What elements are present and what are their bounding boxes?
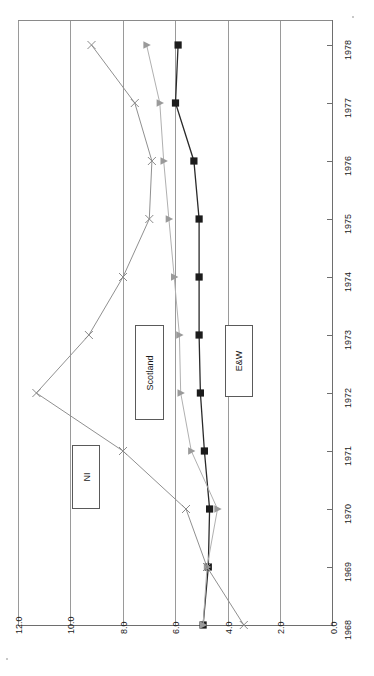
value-tick-label-2: 2.0 — [276, 621, 286, 634]
year-label-1972: 1972 — [343, 388, 353, 408]
value-tick-label-12: 12.0 — [14, 616, 24, 634]
year-label-1975: 1975 — [343, 214, 353, 234]
year-label-1971: 1971 — [343, 446, 353, 466]
year-label-1974: 1974 — [343, 272, 353, 292]
year-label-1978: 1978 — [343, 40, 353, 60]
year-label-1968: 1968 — [343, 620, 353, 640]
chart-canvas: NI Scotland E&W 12.0 10.0 8.0 6.0 4.0 2.… — [0, 0, 374, 676]
series-ni — [32, 41, 247, 629]
value-tick-label-8: 8.0 — [119, 621, 129, 634]
year-label-1973: 1973 — [343, 330, 353, 350]
year-label-1976: 1976 — [343, 156, 353, 176]
year-label-1977: 1977 — [343, 98, 353, 118]
value-tick-label-4: 4.0 — [224, 621, 234, 634]
year-label-1969: 1969 — [343, 562, 353, 582]
year-label-1970: 1970 — [343, 504, 353, 524]
value-tick-label-10: 10.0 — [66, 616, 76, 634]
series-scotland — [143, 41, 221, 629]
value-tick-label-6: 6.0 — [171, 621, 181, 634]
data-series-layer — [0, 0, 374, 676]
value-tick-label-0: 0.0 — [329, 621, 339, 634]
